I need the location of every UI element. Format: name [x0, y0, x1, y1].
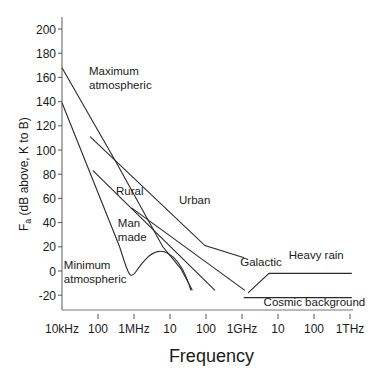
y-axis-title-rest: (dB above, K to B)	[17, 117, 31, 218]
y-tick-label: 40	[43, 216, 57, 230]
y-ticks: -20020406080100120140160180200	[36, 23, 62, 303]
x-axis-title: Frequency	[169, 346, 254, 366]
y-tick-label: 140	[36, 95, 56, 109]
y-axis-title: Fa (dB above, K to B)	[17, 117, 33, 231]
galactic-curve	[132, 208, 245, 290]
x-ticks: 10kHz1001MHz101001GHz101001THz	[45, 314, 364, 336]
x-tick-label: 1GHz	[227, 322, 258, 336]
galactic-label: Galactic	[240, 256, 282, 268]
x-tick-label: 100	[304, 322, 324, 336]
man-made-label: made	[118, 231, 147, 243]
y-tick-label: 180	[36, 47, 56, 61]
noise-figure-chart: -20020406080100120140160180200 10kHz1001…	[0, 0, 382, 383]
x-tick-label: 1MHz	[118, 322, 149, 336]
x-tick-label: 100	[196, 322, 216, 336]
urban-label: Urban	[179, 194, 210, 206]
heavy-rain-label: Heavy rain	[289, 249, 344, 261]
minimum-atmospheric-label: Minimum	[64, 259, 111, 271]
y-tick-label: 60	[43, 192, 57, 206]
man-made-label: Man	[118, 217, 140, 229]
y-tick-label: 160	[36, 71, 56, 85]
x-tick-label: 10	[271, 322, 285, 336]
maximum-atmospheric-label: Maximum	[89, 65, 139, 77]
rural-label: Rural	[116, 185, 143, 197]
y-tick-label: 100	[36, 144, 56, 158]
maximum-atmospheric-label: atmospheric	[89, 79, 152, 91]
urban-curve	[90, 137, 244, 258]
y-tick-label: 20	[43, 240, 57, 254]
y-tick-label: -20	[39, 289, 57, 303]
x-tick-label: 10	[163, 322, 177, 336]
y-tick-label: 0	[49, 265, 56, 279]
minimum-atmospheric-label: atmospheric	[64, 273, 127, 285]
y-tick-label: 120	[36, 119, 56, 133]
y-axis-title-main: F	[17, 224, 31, 231]
x-tick-label: 1THz	[336, 322, 365, 336]
x-tick-label: 10kHz	[45, 322, 79, 336]
heavy-rain-curve	[248, 273, 352, 292]
cosmic-background-label: Cosmic background	[264, 296, 366, 308]
y-tick-label: 80	[43, 168, 57, 182]
y-tick-label: 200	[36, 23, 56, 37]
x-tick-label: 100	[88, 322, 108, 336]
